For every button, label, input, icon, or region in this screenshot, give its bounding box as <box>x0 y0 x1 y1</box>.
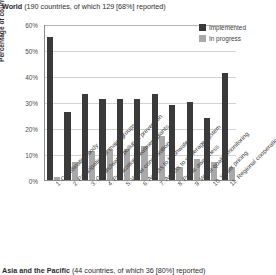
y-axis-tick-label: 20% <box>25 126 38 133</box>
bar-implemented <box>222 73 228 180</box>
y-axis-tick-label: 60% <box>25 22 38 29</box>
chart-legend: Implemented In progress <box>199 24 246 46</box>
legend-swatch-icon-in-progress <box>199 35 206 42</box>
legend-swatch-icon-implemented <box>199 24 206 31</box>
y-axis-tick-label: 10% <box>25 152 38 159</box>
legend-item-implemented: Implemented <box>199 24 246 31</box>
next-section-detail: (44 countries, of which 36 [80%] reporte… <box>70 266 205 275</box>
x-axis-labels: 1. Coordinating body2. Participation of … <box>44 182 276 252</box>
bar-group <box>45 25 62 180</box>
chart-title-region: World <box>2 2 22 11</box>
chart-title-detail: (190 countries, of which 129 [68%] repor… <box>22 2 165 11</box>
chart-panel: World (190 countries, of which 129 [68%]… <box>0 0 276 275</box>
chart-title: World (190 countries, of which 129 [68%]… <box>2 2 166 11</box>
y-axis-tick-label: 0% <box>29 178 38 185</box>
y-axis-tick-label: 50% <box>25 48 38 55</box>
y-axis-tick-label: 30% <box>25 100 38 107</box>
next-section-title: Asia and the Pacific (44 countries, of w… <box>2 266 205 275</box>
y-axis-tick-label: 40% <box>25 74 38 81</box>
bar-implemented <box>47 37 53 180</box>
legend-label-implemented: Implemented <box>209 24 246 31</box>
legend-item-in-progress: In progress <box>199 35 246 42</box>
y-axis-title: Percentage of countries <box>0 0 5 62</box>
legend-label-in-progress: In progress <box>209 35 241 42</box>
next-section-region: Asia and the Pacific <box>2 266 70 275</box>
